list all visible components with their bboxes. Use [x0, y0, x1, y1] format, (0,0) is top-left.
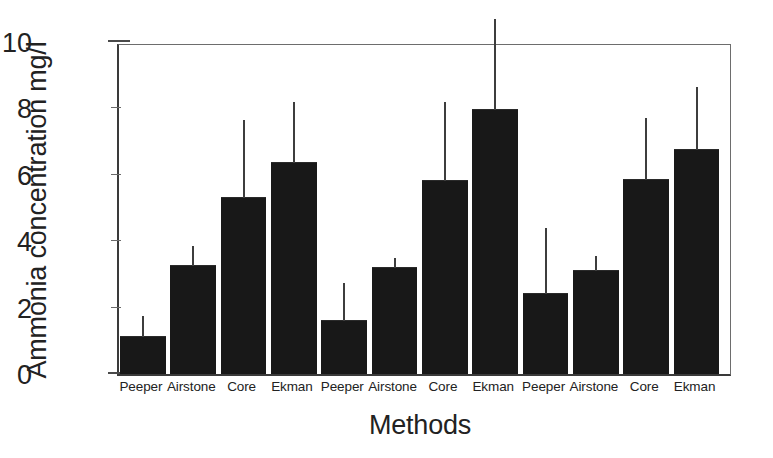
y-axis-tick	[111, 174, 121, 175]
plot-area	[117, 44, 731, 376]
error-bar	[494, 19, 496, 110]
error-bar	[545, 228, 547, 294]
error-bar	[243, 120, 245, 198]
bar	[573, 270, 619, 374]
error-bar	[343, 283, 345, 321]
bar	[674, 149, 720, 374]
y-axis-tick	[111, 107, 121, 108]
error-bar	[192, 246, 194, 266]
error-bar	[595, 256, 597, 271]
bar	[170, 265, 216, 374]
x-axis-title: Methods	[118, 410, 722, 441]
y-axis-tick-label: 4	[0, 229, 32, 256]
error-bar	[444, 102, 446, 182]
bar	[523, 293, 569, 374]
x-axis-tick-label: Ekman	[664, 379, 726, 394]
error-bar	[696, 87, 698, 150]
y-axis-tick	[111, 240, 121, 241]
y-axis-tick-label: 6	[0, 163, 32, 190]
y-axis-tick-label: 0	[0, 362, 32, 389]
y-axis-tick-label: 2	[0, 296, 32, 323]
bar-chart-figure: Ammonia concentration mg/l 0246810 Peepe…	[0, 0, 773, 458]
y-axis-tick	[108, 40, 130, 42]
y-axis-tick-label: 10	[0, 30, 32, 57]
error-bar	[142, 316, 144, 338]
bar	[372, 267, 418, 374]
y-axis-tick	[111, 307, 121, 308]
error-bar	[645, 118, 647, 179]
bar	[472, 109, 518, 374]
error-bar	[394, 258, 396, 268]
bar	[623, 179, 669, 374]
bar	[271, 162, 317, 374]
bar	[120, 336, 166, 374]
bar	[321, 320, 367, 374]
bar	[422, 180, 468, 374]
y-axis-tick-label: 8	[0, 96, 32, 123]
error-bar	[293, 102, 295, 163]
bar	[221, 197, 267, 374]
y-axis-title: Ammonia concentration mg/l	[14, 20, 60, 400]
